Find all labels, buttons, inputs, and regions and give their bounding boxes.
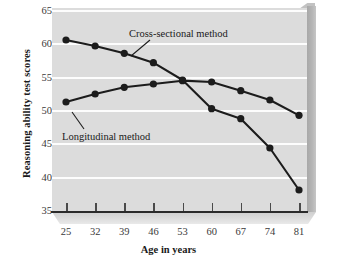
y-tick-label-55: 55 [26,71,52,82]
y-tick-label-50: 50 [26,105,52,116]
x-tick-67 [241,203,243,211]
x-tick-label-67: 67 [236,226,247,237]
x-tick-74 [270,203,272,211]
gridline-60 [52,43,307,45]
x-tick-label-46: 46 [148,226,159,237]
gridline-40 [52,177,307,179]
gridline-50 [52,110,307,112]
x-tick-label-32: 32 [90,226,101,237]
x-tick-32 [95,203,97,211]
y-axis-tick-labels: 35404550556065 [26,0,52,272]
x-axis-line [51,211,308,213]
plot-3d-right-face [307,6,316,212]
x-tick-46 [153,203,155,211]
plot-3d-bottom-face [52,212,316,224]
gridline-55 [52,77,307,79]
x-tick-53 [183,203,185,211]
x-tick-81 [299,203,301,211]
x-tick-label-25: 25 [61,226,72,237]
gridline-65 [52,10,307,12]
x-tick-label-39: 39 [119,226,130,237]
y-tick-label-35: 35 [26,205,52,216]
y-tick-label-40: 40 [26,171,52,182]
x-tick-25 [66,203,68,211]
annotation-longitudinal: Longitudinal method [62,131,150,142]
x-axis-title: Age in years [0,244,337,255]
y-tick-label-65: 65 [26,5,52,16]
x-tick-39 [124,203,126,211]
x-tick-60 [212,203,214,211]
x-tick-label-81: 81 [294,226,305,237]
x-tick-label-74: 74 [265,226,276,237]
y-tick-label-60: 60 [26,38,52,49]
y-tick-label-45: 45 [26,138,52,149]
x-tick-label-53: 53 [177,226,188,237]
chart-figure: Reasoning ability test scores 3540455055… [0,0,337,272]
x-tick-label-60: 60 [206,226,217,237]
annotation-cross-sectional: Cross-sectional method [129,28,228,39]
gridline-45 [52,143,307,145]
